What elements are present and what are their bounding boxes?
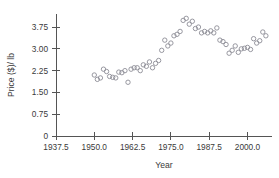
data-point [178, 29, 182, 33]
data-point [150, 66, 154, 70]
data-point [163, 38, 167, 42]
data-point [261, 30, 265, 34]
y-tick-label: 0 [43, 131, 48, 141]
y-tick-label: 1.50 [32, 87, 49, 97]
x-axis: 1937.51950.01962.51975.01987.52000.0 [43, 132, 272, 152]
y-tick-label: 0.75 [32, 109, 49, 119]
data-point [147, 60, 151, 64]
plot-canvas: 00.751.502.253.003.75 1937.51950.01962.5… [0, 0, 279, 178]
y-tick-label: 3.75 [32, 22, 49, 32]
data-point [169, 41, 173, 45]
data-point [190, 19, 194, 23]
y-axis-title: Price ($)/ lb [6, 53, 16, 97]
data-points-group [92, 16, 268, 84]
scatter-chart-figure: 00.751.502.253.003.75 1937.51950.01962.5… [0, 0, 279, 178]
data-point [215, 26, 219, 30]
data-point [224, 42, 228, 46]
x-tick-label: 1975.0 [158, 142, 184, 152]
x-tick-label: 1987.5 [196, 142, 222, 152]
data-point [254, 41, 258, 45]
x-tick-label: 2000.0 [235, 142, 261, 152]
data-point [104, 69, 108, 73]
y-axis: 00.751.502.253.003.75 [32, 14, 60, 141]
data-point [92, 73, 96, 77]
data-point [258, 39, 262, 43]
y-tick-label: 2.25 [32, 66, 49, 76]
x-tick-label: 1962.5 [120, 142, 146, 152]
data-point [101, 67, 105, 71]
data-point [160, 48, 164, 52]
x-tick-label: 1937.5 [43, 142, 69, 152]
data-point [233, 44, 237, 48]
y-tick-label: 3.00 [32, 44, 49, 54]
data-point [230, 48, 234, 52]
data-point [114, 76, 118, 80]
data-point [156, 58, 160, 62]
data-point [251, 36, 255, 40]
data-point [264, 34, 268, 38]
data-point [138, 68, 142, 72]
x-axis-tick-labels: 1937.51950.01962.51975.01987.52000.0 [43, 142, 260, 152]
x-axis-title: Year [155, 160, 173, 170]
x-tick-label: 1950.0 [82, 142, 108, 152]
y-axis-tick-labels: 00.751.502.253.003.75 [32, 22, 49, 141]
data-point [126, 80, 130, 84]
